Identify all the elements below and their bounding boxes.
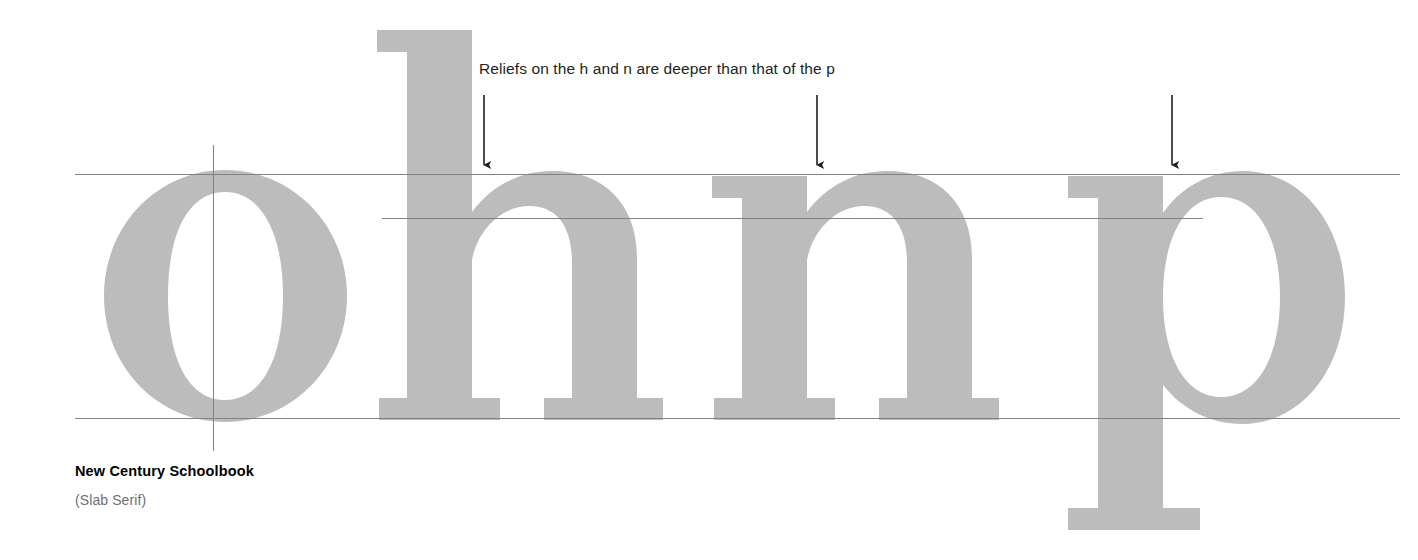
caption: New Century Schoolbook (Slab Serif) xyxy=(75,462,495,510)
typeface-classification: (Slab Serif) xyxy=(75,491,495,510)
figure-canvas: Reliefs on the h and n are deeper than t… xyxy=(0,0,1418,560)
glyph-group xyxy=(104,30,1345,530)
annotation-label: Reliefs on the h and n are deeper than t… xyxy=(479,59,835,79)
glyph-p xyxy=(1068,171,1345,530)
typeface-name: New Century Schoolbook xyxy=(75,462,495,481)
glyph-h xyxy=(377,30,663,420)
annotation-arrows xyxy=(484,95,1172,165)
glyph-n xyxy=(712,171,999,420)
glyph-o xyxy=(104,170,347,422)
